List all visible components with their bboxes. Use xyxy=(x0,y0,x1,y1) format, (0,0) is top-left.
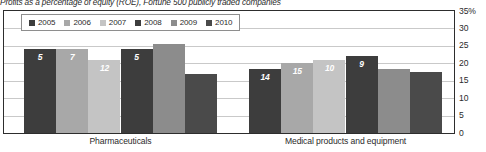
legend-swatch-icon xyxy=(29,20,35,26)
bar-value-label: 14 xyxy=(249,72,281,82)
bar-pharmaceuticals-2005: 5 xyxy=(24,49,56,133)
x-axis-category-labels: PharmaceuticalsMedical products and equi… xyxy=(4,136,454,150)
y-axis: 35%302520151050 xyxy=(459,0,486,152)
category-label-medical-products-and-equipment: Medical products and equipment xyxy=(256,136,436,146)
legend-item-2007[interactable]: 2007 xyxy=(100,18,126,27)
legend-item-2009[interactable]: 2009 xyxy=(171,18,197,27)
legend-item-2008[interactable]: 2008 xyxy=(135,18,161,27)
bar-value-label: 15 xyxy=(281,66,313,76)
bar-medical-products-and-equipment-2008: 9 xyxy=(346,56,378,133)
legend-swatch-icon xyxy=(64,20,70,26)
chart-root: Profits as a percentage of equity (ROE),… xyxy=(0,0,486,152)
legend-label: 2005 xyxy=(38,18,55,27)
bar-medical-products-and-equipment-2010 xyxy=(410,72,442,133)
bar-medical-products-and-equipment-2007: 10 xyxy=(313,60,345,133)
y-axis-tick-label: 0 xyxy=(459,128,464,138)
bar-pharmaceuticals-2009 xyxy=(153,44,185,133)
bar-value-label: 9 xyxy=(346,59,378,69)
legend-item-2010[interactable]: 2010 xyxy=(206,18,232,27)
y-axis-tick-label: 10 xyxy=(459,93,468,103)
y-axis-tick-label: 5 xyxy=(459,110,464,120)
legend-label: 2009 xyxy=(180,18,197,27)
bar-value-label: 12 xyxy=(88,63,120,73)
legend-swatch-icon xyxy=(135,20,141,26)
legend-swatch-icon xyxy=(171,20,177,26)
bar-pharmaceuticals-2008: 5 xyxy=(121,49,153,133)
bar-value-label: 7 xyxy=(56,52,88,62)
legend-swatch-icon xyxy=(206,20,212,26)
chart-legend[interactable]: 200520062007200820092010 xyxy=(21,14,240,31)
legend-swatch-icon xyxy=(100,20,106,26)
y-axis-tick-label: 20 xyxy=(459,58,468,68)
bar-pharmaceuticals-2010 xyxy=(185,74,217,133)
legend-label: 2008 xyxy=(144,18,161,27)
bar-medical-products-and-equipment-2009 xyxy=(378,69,410,133)
legend-label: 2010 xyxy=(215,18,232,27)
category-label-pharmaceuticals: Pharmaceuticals xyxy=(31,136,211,146)
bar-value-label: 10 xyxy=(313,63,345,73)
legend-label: 2006 xyxy=(73,18,90,27)
bar-value-label: 5 xyxy=(24,52,56,62)
y-axis-tick-label: 35% xyxy=(459,6,476,16)
legend-item-2006[interactable]: 2006 xyxy=(64,18,90,27)
bar-pharmaceuticals-2006: 7 xyxy=(56,49,88,133)
y-axis-tick-label: 25 xyxy=(459,40,468,50)
legend-label: 2007 xyxy=(109,18,126,27)
bar-value-label: 5 xyxy=(121,52,153,62)
y-axis-tick-label: 30 xyxy=(459,23,468,33)
y-axis-tick-label: 15 xyxy=(459,75,468,85)
bar-pharmaceuticals-2007: 12 xyxy=(88,60,120,133)
bar-medical-products-and-equipment-2005: 14 xyxy=(249,69,281,133)
chart-title: Profits as a percentage of equity (ROE),… xyxy=(0,0,440,7)
bar-medical-products-and-equipment-2006: 15 xyxy=(281,63,313,133)
legend-item-2005[interactable]: 2005 xyxy=(29,18,55,27)
